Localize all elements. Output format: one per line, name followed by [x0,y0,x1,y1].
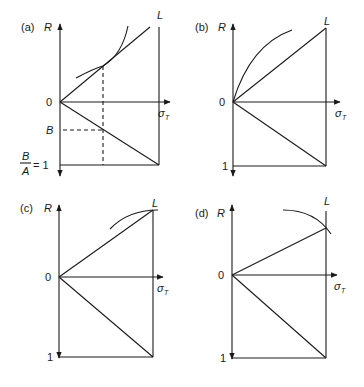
panel-d: (d) R 0 L 1 σ T [195,195,346,364]
origin-label: 0 [219,96,225,108]
sigma-label: σ [158,107,165,119]
sigma-subscript: T [165,114,170,121]
panel-c: (c) R 0 L 1 σ T [20,197,169,363]
convex-curve [283,210,331,234]
one-label: 1 [222,160,228,172]
sigma-label: σ [335,107,342,119]
sigma-subscript: T [342,114,347,121]
sigma-subscript: T [164,289,169,296]
l-label: L [324,195,330,207]
r-axis-label: R [44,21,52,33]
upper-ray [232,228,326,275]
l-label: L [324,15,330,27]
r-axis-label: R [217,207,225,219]
four-panel-diagram: (a) R 0 L B σ T B A = 1 (b) R 0 L 1 σ T [0,0,364,387]
panel-b: (b) R 0 L 1 σ T [195,15,347,176]
sigma-label: σ [334,280,341,292]
upper-ray [59,210,153,277]
concave-curve [110,210,158,229]
r-axis-label: R [44,202,52,214]
sigma-label: σ [157,282,164,294]
origin-label: 0 [45,271,51,283]
one-label: 1 [47,351,53,363]
l-label: L [157,9,163,21]
lower-ray [60,102,159,165]
fraction-denominator: A [21,165,29,177]
concave-curve [233,30,292,102]
panel-a: (a) R 0 L B σ T B A = 1 [20,9,170,177]
panel-tag: (b) [195,21,208,33]
equals-one: = 1 [33,159,49,171]
fraction-numerator: B [22,150,29,162]
panel-tag: (a) [21,21,34,33]
upper-ray [233,28,326,102]
panel-tag: (d) [195,207,208,219]
one-label: 1 [220,352,226,364]
lower-ray [233,102,326,166]
origin-label: 0 [46,96,52,108]
panel-tag: (c) [20,202,33,214]
b-label: B [46,124,53,136]
origin-label: 0 [218,269,224,281]
sigma-subscript: T [341,287,346,294]
l-label: L [152,197,158,209]
lower-ray [232,275,326,358]
lower-ray [59,277,153,357]
r-axis-label: R [218,21,226,33]
